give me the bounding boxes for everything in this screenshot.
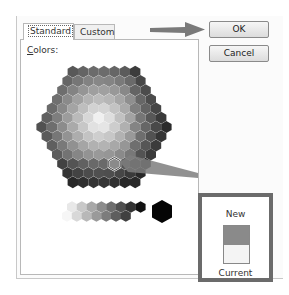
tab-standard-label: Standard — [29, 26, 72, 36]
grayscale-swatch[interactable] — [136, 201, 146, 213]
tab-standard[interactable]: Standard — [23, 23, 74, 40]
grayscale-swatch-row[interactable] — [62, 201, 146, 222]
new-color-swatch — [224, 226, 249, 245]
grayscale-swatch[interactable] — [126, 201, 136, 213]
arrow-to-ok-icon — [150, 22, 205, 37]
grayscale-swatch[interactable] — [62, 210, 72, 222]
preview-current-label: Current — [202, 268, 269, 278]
preview-swatch — [223, 225, 250, 264]
color-preview-box: New Current — [198, 193, 273, 282]
current-color-swatch — [224, 245, 249, 264]
preview-new-label: New — [202, 209, 269, 219]
black-swatch[interactable] — [152, 200, 172, 223]
